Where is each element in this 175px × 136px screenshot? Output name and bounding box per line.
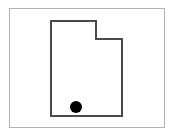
- map-canvas: [0, 0, 175, 136]
- location-dot-marker: [70, 101, 82, 113]
- map-figure: Utah: [0, 0, 175, 136]
